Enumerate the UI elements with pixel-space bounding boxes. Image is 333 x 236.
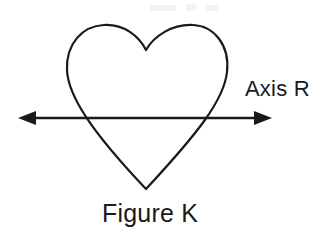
axis-label: Axis R	[245, 78, 310, 100]
arrow-right-icon	[254, 111, 272, 125]
arrow-left-icon	[18, 111, 36, 125]
figure-caption: Figure K	[102, 201, 198, 226]
heart-shape-path	[67, 25, 227, 189]
figure-screenshot: Axis R Figure K	[0, 0, 333, 236]
